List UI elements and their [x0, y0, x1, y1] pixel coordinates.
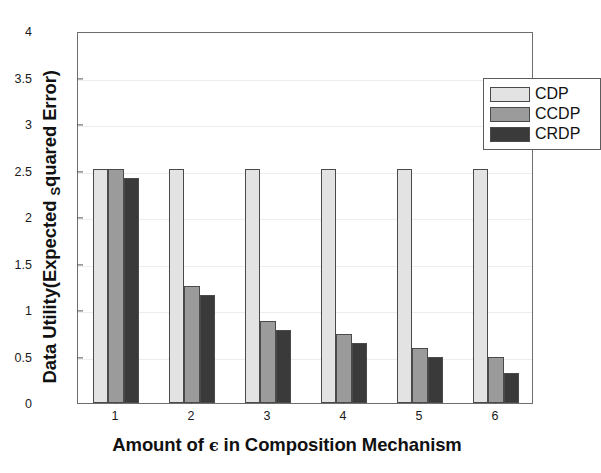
- bar-crdp-6: [504, 373, 519, 403]
- gridline-y-2.5: [78, 173, 532, 174]
- y-tick-label-1.5: 1.5: [0, 258, 32, 272]
- bar-ccdp-5: [412, 348, 427, 403]
- bar-crdp-3: [276, 330, 291, 403]
- gridline-y-1.5: [78, 266, 532, 267]
- y-axis-title-part-1: Data Utility(Expected: [39, 196, 60, 384]
- y-axis-title-subscript: S: [48, 187, 63, 196]
- plot-area: CDPCCDPCRDP: [77, 32, 533, 404]
- y-tick-label-2: 2: [0, 211, 32, 225]
- bar-cdp-6: [473, 169, 488, 403]
- y-tick-label-1: 1: [0, 304, 32, 318]
- bar-cdp-1: [93, 169, 108, 403]
- chart-legend: CDPCCDPCRDP: [483, 78, 601, 150]
- bar-crdp-4: [352, 343, 367, 403]
- x-tick-label-4: 4: [323, 409, 363, 423]
- x-tick-label-1: 1: [95, 409, 135, 423]
- bar-ccdp-2: [184, 286, 199, 403]
- bar-ccdp-1: [108, 169, 123, 403]
- gridline-y-2: [78, 219, 532, 220]
- x-axis-title: Amount of ϵ in Composition Mechanism: [0, 434, 574, 456]
- y-tick-label-0: 0: [0, 397, 32, 411]
- y-tick-label-3.5: 3.5: [0, 72, 32, 86]
- x-tick-label-6: 6: [475, 409, 515, 423]
- y-tick-mark-3: [77, 124, 83, 125]
- gridline-y-1: [78, 312, 532, 313]
- bar-crdp-1: [124, 178, 139, 403]
- bar-cdp-3: [245, 169, 260, 403]
- x-tick-label-2: 2: [171, 409, 211, 423]
- bar-cdp-4: [321, 169, 336, 403]
- epsilon-symbol: ϵ: [209, 436, 219, 455]
- y-tick-mark-3.5: [77, 78, 83, 79]
- bar-ccdp-4: [336, 334, 351, 403]
- x-tick-label-5: 5: [399, 409, 439, 423]
- bar-cdp-5: [397, 169, 412, 403]
- legend-item-ccdp[interactable]: CCDP: [490, 104, 594, 124]
- x-axis-title-part-2: in Composition Mechanism: [219, 434, 462, 455]
- bar-ccdp-3: [260, 321, 275, 403]
- bar-crdp-2: [200, 295, 215, 403]
- legend-item-crdp[interactable]: CRDP: [490, 124, 594, 144]
- bar-crdp-5: [428, 357, 443, 403]
- legend-label-ccdp: CCDP: [535, 106, 580, 122]
- y-tick-label-4: 4: [0, 25, 32, 39]
- y-axis-title-part-2: quared Error): [39, 70, 60, 187]
- y-tick-label-2.5: 2.5: [0, 165, 32, 179]
- x-axis-title-part-1: Amount of: [112, 434, 209, 455]
- y-tick-label-0.5: 0.5: [0, 351, 32, 365]
- legend-item-cdp[interactable]: CDP: [490, 84, 594, 104]
- y-tick-mark-2.5: [77, 171, 83, 172]
- y-tick-mark-0.5: [77, 357, 83, 358]
- y-tick-mark-1: [77, 310, 83, 311]
- gridline-y-3: [78, 126, 532, 127]
- legend-swatch-crdp: [490, 127, 530, 142]
- legend-label-cdp: CDP: [535, 86, 569, 102]
- y-tick-mark-2: [77, 217, 83, 218]
- legend-swatch-ccdp: [490, 107, 530, 122]
- y-tick-mark-1.5: [77, 264, 83, 265]
- y-axis-title: Data Utility(Expected Squared Error): [39, 32, 63, 422]
- bar-ccdp-6: [488, 357, 503, 404]
- legend-label-crdp: CRDP: [535, 126, 580, 142]
- bar-cdp-2: [169, 169, 184, 403]
- gridline-y-3.5: [78, 80, 532, 81]
- legend-swatch-cdp: [490, 87, 530, 102]
- gridline-y-0.5: [78, 359, 532, 360]
- x-tick-label-3: 3: [247, 409, 287, 423]
- y-tick-label-3: 3: [0, 118, 32, 132]
